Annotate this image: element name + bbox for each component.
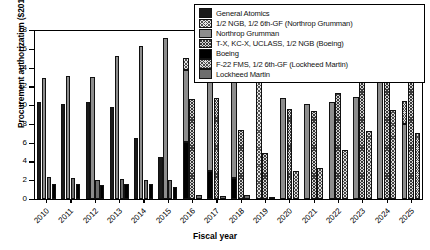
legend-swatch [199, 69, 212, 79]
bar-segment [280, 98, 286, 199]
y-tick-label: 16 [0, 44, 27, 53]
x-tick [362, 199, 363, 203]
bar-segment [402, 101, 408, 124]
bar [158, 157, 162, 199]
bar-segment [317, 168, 323, 199]
legend-item: Lockheed Martin [199, 69, 420, 79]
y-tick-label: 6 [0, 138, 27, 147]
bar-segment [244, 195, 250, 199]
bar [214, 98, 220, 199]
bar-group-2013 [107, 30, 131, 199]
x-tick [241, 199, 242, 203]
x-tick [119, 199, 120, 203]
y-tick-label: 4 [0, 156, 27, 165]
bar-segment [293, 171, 299, 199]
legend-label: F-22 FMS, 1/2 6th-GF (Lockheed Martin) [216, 60, 348, 69]
bar-segment [262, 153, 268, 199]
bar [196, 195, 202, 199]
legend-label: General Atomics [216, 9, 269, 18]
bar-segment [231, 178, 237, 199]
bar [335, 93, 341, 199]
bar-segment [214, 98, 220, 199]
bar-segment [52, 184, 56, 199]
bar [71, 178, 75, 199]
bar [183, 58, 189, 199]
bar-segment [76, 184, 80, 199]
bar-segment [415, 133, 421, 199]
x-tick [143, 199, 144, 203]
bar [342, 150, 348, 199]
bar [47, 177, 51, 199]
legend-item: 1/2 NGB, 1/2 6th-GF (Northrop Grumman) [199, 18, 420, 28]
x-tick [411, 199, 412, 203]
bar-segment [196, 195, 202, 199]
x-axis-line [34, 199, 423, 200]
bar-segment [329, 102, 335, 199]
y-tick-label: 14 [0, 63, 27, 72]
x-tick [387, 199, 388, 203]
bar-group-2010 [34, 30, 58, 199]
y-tick-label: 12 [0, 81, 27, 90]
x-tick [289, 199, 290, 203]
bar [293, 171, 299, 199]
x-axis-title: Fiscal year [0, 231, 430, 241]
bar-segment [37, 102, 41, 199]
bar-segment [144, 180, 148, 199]
bar-group-2011 [58, 30, 82, 199]
bar [144, 180, 148, 199]
bar-segment [335, 93, 341, 199]
x-tick [192, 199, 193, 203]
bar [359, 77, 365, 199]
figure: Procurement authorization ($2011B) Fisca… [0, 0, 430, 250]
x-tick [265, 199, 266, 203]
x-tick [70, 199, 71, 203]
y-tick-label: 18 [0, 25, 27, 34]
y-tick-label: 0 [0, 194, 27, 203]
bar-segment [110, 107, 114, 199]
bar [269, 197, 275, 199]
bar-segment [269, 197, 275, 199]
legend-swatch [199, 59, 212, 69]
bar-segment [366, 131, 372, 199]
bar [86, 102, 90, 199]
legend-label: Lockheed Martin [216, 70, 270, 79]
legend-item: Boeing [199, 49, 420, 59]
y-tick-label: 2 [0, 175, 27, 184]
legend-item: Northrop Grumman [199, 28, 420, 38]
bar-segment [207, 171, 213, 199]
bar-segment [42, 78, 46, 199]
bar [353, 97, 359, 199]
bar-group-2015 [156, 30, 180, 199]
bar [124, 184, 128, 199]
bar-group-2014 [131, 30, 155, 199]
bar-segment [71, 178, 75, 199]
x-tick [46, 199, 47, 203]
x-tick [338, 199, 339, 203]
y-tick [29, 199, 34, 200]
bar-segment [402, 124, 408, 199]
bar [280, 98, 286, 199]
bar-segment [173, 187, 177, 199]
bar [220, 196, 226, 199]
legend-swatch [199, 29, 212, 39]
bar-segment [149, 184, 153, 199]
bar-segment [139, 46, 143, 199]
bar-segment [134, 138, 138, 199]
bar [366, 131, 372, 199]
bar [66, 76, 70, 199]
legend-item: T-X, KC-X, UCLASS, 1/2 NGB (Boeing) [199, 39, 420, 49]
bar-segment [124, 184, 128, 199]
bar-segment [95, 180, 99, 199]
legend-swatch [199, 8, 212, 18]
y-tick-label: 10 [0, 100, 27, 109]
bar [390, 110, 396, 199]
bar-segment [231, 78, 237, 178]
bar-segment [183, 70, 189, 141]
bar [149, 184, 153, 199]
bar [110, 107, 114, 199]
bar-segment [163, 38, 167, 199]
bar-segment [47, 177, 51, 199]
bar [61, 104, 65, 199]
legend-label: 1/2 NGB, 1/2 6th-GF (Northrop Grumman) [216, 19, 353, 28]
bar-segment [342, 150, 348, 199]
